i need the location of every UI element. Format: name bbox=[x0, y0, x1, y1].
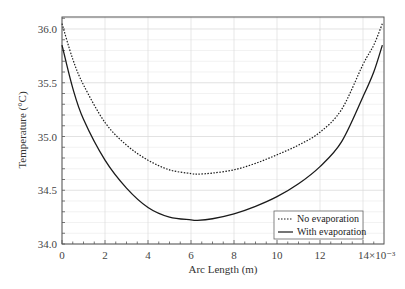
grid-lines bbox=[62, 17, 384, 244]
plot-area bbox=[62, 17, 384, 244]
legend-label-no-evaporation: No evaporation bbox=[297, 213, 359, 224]
y-tick-label: 34.0 bbox=[38, 238, 58, 250]
x-tick-label: 8 bbox=[231, 249, 237, 261]
y-axis-title: Temperature (°C) bbox=[16, 91, 29, 169]
x-tick-label: 6 bbox=[188, 249, 194, 261]
x-axis-tick-labels: 02468101214×10⁻³ bbox=[59, 249, 396, 261]
series-with-evaporation bbox=[62, 45, 382, 220]
axis-ticks bbox=[62, 18, 374, 244]
y-tick-label: 35.0 bbox=[38, 131, 58, 143]
y-axis-tick-labels: 34.034.535.035.536.0 bbox=[38, 23, 58, 250]
x-axis-title: Arc Length (m) bbox=[188, 263, 257, 276]
legend-label-with-evaporation: With evaporation bbox=[297, 226, 366, 237]
x-tick-label: 2 bbox=[102, 249, 108, 261]
y-tick-label: 36.0 bbox=[38, 23, 58, 35]
legend: No evaporation With evaporation bbox=[274, 211, 366, 239]
y-tick-label: 34.5 bbox=[38, 184, 58, 196]
x-tick-label: 0 bbox=[59, 249, 65, 261]
line-chart: 02468101214×10⁻³ 34.034.535.035.536.0 Ar… bbox=[0, 0, 405, 289]
x-tick-label: 14×10⁻³ bbox=[358, 249, 396, 261]
x-tick-label: 4 bbox=[145, 249, 151, 261]
x-tick-label: 12 bbox=[315, 249, 326, 261]
data-series bbox=[62, 24, 382, 221]
y-tick-label: 35.5 bbox=[38, 77, 58, 89]
x-tick-label: 10 bbox=[272, 249, 284, 261]
